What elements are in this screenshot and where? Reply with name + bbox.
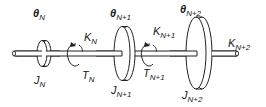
angle-label-n2: θN+2 <box>180 3 202 18</box>
angle-label-n: θN <box>33 7 45 22</box>
inertia-label-n1: JN+1 <box>110 84 131 99</box>
angle-label-n1: θN+1 <box>110 7 131 22</box>
stiffness-label-n2: KN+2 <box>228 37 251 52</box>
torque-label-n1: TN+1 <box>143 67 165 82</box>
torsional-shaft-diagram: θN θN+1 θN+2 JN JN+1 JN+2 KN KN+1 KN+2 T… <box>0 0 266 107</box>
stiffness-label-n: KN <box>84 31 97 46</box>
stiffness-label-n1: KN+1 <box>153 25 175 40</box>
inertia-label-n: JN <box>33 74 46 89</box>
torque-label-n: TN <box>82 69 95 84</box>
inertia-label-n2: JN+2 <box>181 89 203 104</box>
